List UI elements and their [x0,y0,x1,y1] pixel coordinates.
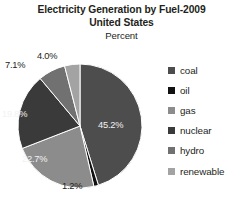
slice-label-renewable: 4.0% [37,51,57,61]
legend-item-hydro[interactable]: hydro [168,141,243,161]
page-title: Electricity Generation by Fuel-2009 [0,3,243,16]
legend-item-nuclear[interactable]: nuclear [168,121,243,141]
pie-chart-plot-area: 45.2% 1.2% 22.7% 19.8% 7.1% 4.0% [0,52,160,200]
pie-slice-group [18,64,142,188]
slice-label-gas: 22.7% [22,154,47,164]
chart-legend: coaloilgasnuclearhydrorenewable [168,60,243,181]
legend-item-oil[interactable]: oil [168,80,243,100]
slice-label-hydro: 7.1% [5,60,25,70]
chart-title-block: Electricity Generation by Fuel-2009 Unit… [0,3,243,43]
legend-item-label: hydro [180,145,204,156]
legend-item-label: coal [180,65,198,76]
slice-label-oil: 1.2% [62,181,82,191]
legend-item-label: gas [180,105,196,116]
legend-swatch-icon-renewable [168,168,175,175]
slice-label-coal: 45.2% [98,120,123,130]
legend-item-label: renewable [180,166,224,177]
legend-swatch-icon-coal [168,67,175,74]
legend-swatch-icon-nuclear [168,127,175,134]
legend-item-label: oil [180,85,190,96]
legend-swatch-icon-oil [168,87,175,94]
legend-item-coal[interactable]: coal [168,60,243,80]
legend-swatch-icon-hydro [168,147,175,154]
legend-swatch-icon-gas [168,107,175,114]
pie-chart-svg [0,52,160,200]
chart-units-label: Percent [0,29,243,43]
chart-subtitle: United States [0,16,243,29]
legend-item-gas[interactable]: gas [168,100,243,120]
slice-label-nuclear: 19.8% [2,109,27,119]
legend-item-renewable[interactable]: renewable [168,161,243,181]
legend-item-label: nuclear [180,125,211,136]
